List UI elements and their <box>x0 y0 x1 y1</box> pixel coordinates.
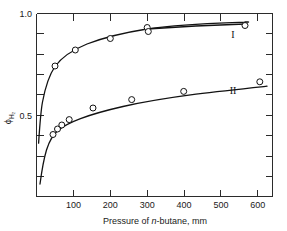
x-tick-label-300: 300 <box>140 200 155 210</box>
svg-text:Pressure of n-butane, mm: Pressure of n-butane, mm <box>103 216 207 226</box>
x-tick-label-500: 500 <box>213 200 228 210</box>
data-point-marker <box>145 29 151 35</box>
data-point-marker <box>59 122 65 128</box>
data-point-marker <box>129 97 135 103</box>
x-tick-label-600: 600 <box>250 200 265 210</box>
x-tick-marks <box>73 190 257 197</box>
y-tick-label-0point5: 0.5 <box>19 111 32 121</box>
x-tick-marks-top <box>73 14 257 21</box>
data-point-marker <box>50 132 56 138</box>
series-label-I: I <box>231 29 234 40</box>
series-label-II: II <box>230 85 237 96</box>
series-labels: I II <box>230 29 237 96</box>
y-tick-label-1: 1.0 <box>19 9 32 19</box>
data-point-marker <box>72 47 78 53</box>
x-axis-title-prefix: Pressure of <box>103 216 152 226</box>
x-tick-label-100: 100 <box>66 200 81 210</box>
y-tick-labels: 1.0 0.5 <box>19 9 32 121</box>
x-tick-labels: 100 200 300 400 500 600 <box>66 200 265 210</box>
series-curve-II <box>40 86 267 184</box>
data-point-marker <box>107 36 113 42</box>
chart-figure: 1.0 0.5 100 200 300 400 500 600 Pressure… <box>0 0 287 231</box>
data-point-marker <box>66 117 72 123</box>
chart-plot-area: 1.0 0.5 100 200 300 400 500 600 Pressure… <box>0 0 287 231</box>
plot-frame <box>37 14 273 197</box>
y-axis-title-subscript: H₂ <box>8 111 15 119</box>
y-axis-title: ϕH₂ <box>3 111 15 124</box>
svg-text:ϕH₂: ϕH₂ <box>3 111 15 124</box>
y-tick-marks-right <box>266 34 273 176</box>
y-tick-marks <box>37 14 44 177</box>
data-point-marker <box>52 63 58 69</box>
x-tick-label-400: 400 <box>176 200 191 210</box>
series-curve-I <box>39 22 249 143</box>
x-axis-title: Pressure of n-butane, mm <box>103 216 207 226</box>
x-tick-label-200: 200 <box>103 200 118 210</box>
data-point-marker <box>90 105 96 111</box>
data-point-marker <box>257 79 263 85</box>
data-point-marker <box>181 88 187 94</box>
data-point-marker <box>242 23 248 29</box>
x-axis-title-suffix: -butane, mm <box>157 216 208 226</box>
